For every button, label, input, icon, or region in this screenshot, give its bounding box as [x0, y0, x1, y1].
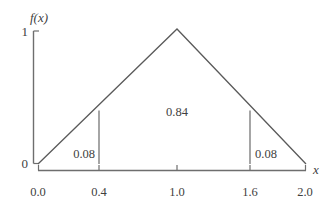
- y-axis-label: f(x): [30, 11, 48, 24]
- density-curve: [38, 29, 306, 164]
- area-label-left: 0.08: [73, 148, 95, 161]
- x-tick-label-0: 0.0: [30, 186, 46, 199]
- x-tick-label-3: 1.6: [242, 186, 258, 199]
- x-axis-label: x: [313, 163, 319, 176]
- x-tick-label-4: 2.0: [297, 186, 313, 199]
- area-label-right: 0.08: [255, 148, 277, 161]
- x-tick-label-1: 0.4: [91, 186, 107, 199]
- chart-figure: f(x) x 1 0 0.0 0.4 1.0 1.6 2.0 0.08 0.84…: [0, 0, 335, 214]
- area-label-center: 0.84: [166, 106, 188, 119]
- y-tick-label-1: 1: [22, 25, 29, 38]
- x-tick-label-2: 1.0: [169, 186, 185, 199]
- y-tick-label-0: 0: [22, 157, 29, 170]
